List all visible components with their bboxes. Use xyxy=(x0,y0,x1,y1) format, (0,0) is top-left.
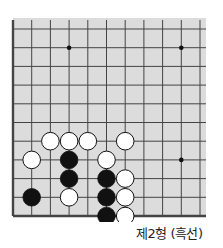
white-stone xyxy=(60,132,78,150)
white-stone xyxy=(23,151,41,169)
black-stone xyxy=(60,170,78,188)
white-stone xyxy=(79,132,97,150)
white-stone xyxy=(98,151,116,169)
star-point xyxy=(179,45,184,50)
black-stone xyxy=(98,189,116,207)
white-stone xyxy=(116,132,134,150)
white-stone xyxy=(116,170,134,188)
problem-caption: 제2형 (흑선) xyxy=(136,223,208,242)
black-stone xyxy=(60,151,78,169)
white-stone xyxy=(116,189,134,207)
black-stone xyxy=(23,189,41,207)
white-stone xyxy=(42,132,60,150)
black-stone xyxy=(98,207,116,222)
white-stone xyxy=(60,189,78,207)
go-board xyxy=(0,0,223,222)
black-stone xyxy=(98,170,116,188)
star-point xyxy=(67,45,72,50)
star-point xyxy=(179,158,184,163)
white-stone xyxy=(116,207,134,222)
